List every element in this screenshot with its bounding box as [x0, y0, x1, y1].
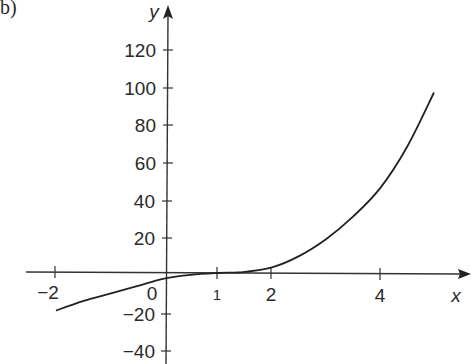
y-tick-neg20: −20: [123, 304, 155, 325]
y-tick-60: 60: [135, 153, 156, 174]
y-tick-100: 100: [124, 78, 156, 99]
y-tick-120: 120: [124, 40, 156, 61]
y-axis: [166, 14, 168, 364]
x-tick-neg2: −2: [37, 282, 59, 303]
part-label: b): [0, 0, 17, 19]
y-tick-40: 40: [134, 191, 155, 212]
y-tick-80: 80: [135, 115, 156, 136]
x-tick-1: 1: [213, 286, 221, 303]
y-tick-neg40: −40: [123, 341, 155, 362]
curve-line: [56, 93, 434, 311]
y-axis-label: y: [147, 1, 160, 22]
y-tick-20: 20: [134, 228, 155, 249]
x-tick-2: 2: [266, 284, 277, 305]
chart: b) 120 100 80 60 40 20 −20 −40 −2 0 1 2 …: [0, 0, 471, 364]
x-axis-label: x: [450, 285, 462, 306]
x-tick-4: 4: [375, 285, 386, 306]
origin-label: 0: [147, 283, 158, 304]
